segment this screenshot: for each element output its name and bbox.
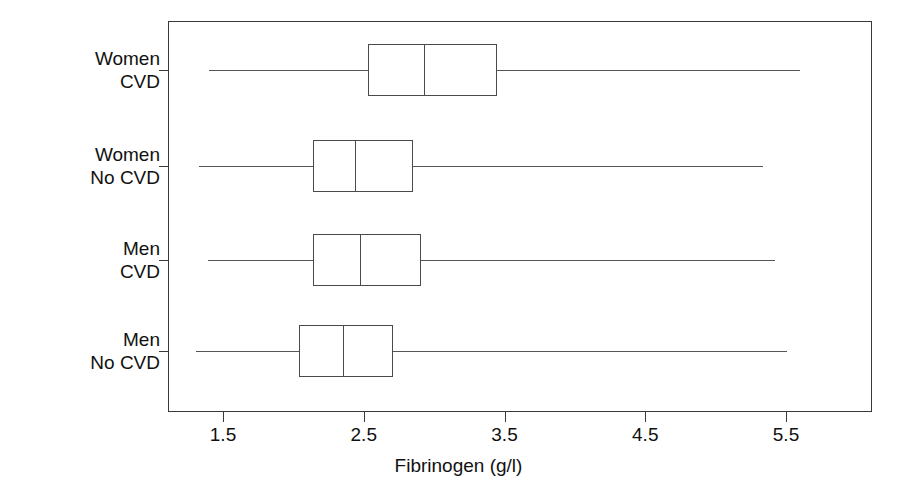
whisker-high bbox=[393, 351, 787, 352]
category-label-men-no-cvd: MenNo CVD bbox=[10, 328, 160, 374]
x-axis-tick bbox=[364, 412, 365, 422]
boxplot-figure: WomenCVDWomenNo CVDMenCVDMenNo CVD 1.52.… bbox=[0, 0, 917, 501]
x-axis-tick-label: 1.5 bbox=[183, 424, 263, 446]
whisker-low bbox=[196, 351, 299, 352]
y-axis-tick bbox=[159, 166, 168, 167]
median-line bbox=[360, 234, 361, 286]
box-iqr bbox=[313, 234, 421, 286]
category-label-line1: Men bbox=[10, 328, 160, 351]
x-axis-tick-label: 3.5 bbox=[465, 424, 545, 446]
median-line bbox=[424, 44, 425, 96]
box-iqr bbox=[368, 44, 497, 96]
whisker-low bbox=[209, 70, 368, 71]
category-label-line2: No CVD bbox=[10, 351, 160, 374]
category-label-line2: CVD bbox=[10, 260, 160, 283]
category-label-line2: No CVD bbox=[10, 166, 160, 189]
box-iqr bbox=[313, 140, 413, 192]
whisker-low bbox=[199, 166, 313, 167]
box-iqr bbox=[299, 325, 393, 377]
category-axis-labels: WomenCVDWomenNo CVDMenCVDMenNo CVD bbox=[0, 21, 160, 412]
whisker-high bbox=[497, 70, 800, 71]
category-label-line1: Women bbox=[10, 143, 160, 166]
whisker-high bbox=[421, 260, 774, 261]
x-axis-tick bbox=[645, 412, 646, 422]
median-line bbox=[343, 325, 344, 377]
category-label-line1: Women bbox=[10, 47, 160, 70]
plot-area bbox=[168, 21, 872, 412]
y-axis-tick bbox=[159, 70, 168, 71]
category-label-men-cvd: MenCVD bbox=[10, 237, 160, 283]
x-axis-tick-label: 2.5 bbox=[324, 424, 404, 446]
category-label-line2: CVD bbox=[10, 70, 160, 93]
category-label-line1: Men bbox=[10, 237, 160, 260]
category-label-women-cvd: WomenCVD bbox=[10, 47, 160, 93]
y-axis-tick bbox=[159, 260, 168, 261]
x-axis-tick-label: 5.5 bbox=[746, 424, 826, 446]
x-axis-tick bbox=[505, 412, 506, 422]
whisker-high bbox=[413, 166, 763, 167]
x-axis-tick bbox=[223, 412, 224, 422]
whisker-low bbox=[208, 260, 314, 261]
x-axis-tick-label: 4.5 bbox=[605, 424, 685, 446]
category-label-women-no-cvd: WomenNo CVD bbox=[10, 143, 160, 189]
y-axis-tick bbox=[159, 351, 168, 352]
x-axis-title: Fibrinogen (g/l) bbox=[0, 455, 917, 477]
median-line bbox=[355, 140, 356, 192]
x-axis-tick bbox=[786, 412, 787, 422]
